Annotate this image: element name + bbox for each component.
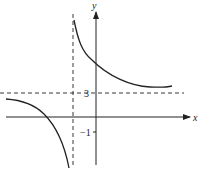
right-branch-curve xyxy=(74,20,172,87)
graph-figure: y x 3 −1 xyxy=(0,0,200,171)
y-axis-label: y xyxy=(91,0,97,11)
x-axis-label: x xyxy=(192,112,198,123)
tick-label-neg1: −1 xyxy=(80,127,91,138)
tick-label-3: 3 xyxy=(84,88,89,99)
hyperbola-plot: y x 3 −1 xyxy=(0,0,200,171)
left-branch-curve xyxy=(6,99,69,168)
